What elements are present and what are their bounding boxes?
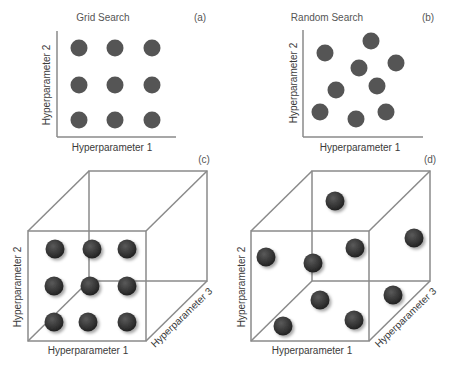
panel-a-xlabel: Hyperparameter 1 [72,142,153,153]
panel-c-tag: (c) [198,154,210,165]
figure: Grid Search (a) Hyperparameter 1 Hyperpa… [0,0,449,373]
panel-a-title: Grid Search [76,12,129,23]
panel-a-ylabel: Hyperparameter 2 [41,44,52,125]
panel-b-xlabel: Hyperparameter 1 [320,142,401,153]
panel-a-tag: (a) [194,12,206,23]
random-points [312,33,405,128]
panel-d-random-3d: (d) Hyperparameter 1 Hyperparameter 2 Hy… [236,154,439,356]
panel-b-tag: (b) [422,12,434,23]
panel-d-zlabel: Hyperparameter 3 [373,285,439,349]
panel-b-title: Random Search [291,12,363,23]
panel-c-xlabel: Hyperparameter 1 [48,345,129,356]
grid-spheres [45,240,137,332]
panel-d-tag: (d) [424,154,436,165]
panel-d-ylabel: Hyperparameter 2 [236,246,247,327]
panel-c-zlabel: Hyperparameter 3 [149,285,215,349]
panel-b-random-search: Random Search (b) Hyperparameter 1 Hyper… [288,12,434,153]
grid-points [71,40,161,129]
panel-a-grid-search: Grid Search (a) Hyperparameter 1 Hyperpa… [41,12,206,153]
panel-d-xlabel: Hyperparameter 1 [272,345,353,356]
random-spheres [257,192,424,336]
panel-b-ylabel: Hyperparameter 2 [288,42,299,123]
panel-c-ylabel: Hyperparameter 2 [12,246,23,327]
panel-c-grid-3d: (c) Hyperparameter 1 Hyperparameter 2 Hy… [12,154,215,356]
